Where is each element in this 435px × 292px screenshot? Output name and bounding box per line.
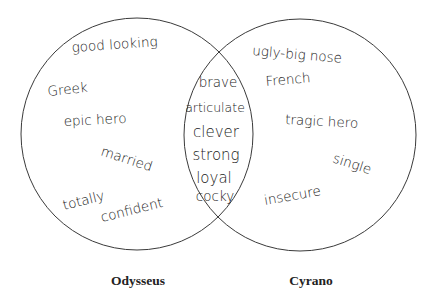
label-cyrano: Cyrano: [289, 273, 333, 288]
venn-diagram: good looking Greek epic hero married tot…: [0, 0, 435, 292]
item-married: married: [99, 143, 154, 175]
item-insecure: insecure: [263, 182, 322, 208]
item-cocky: cocky: [196, 188, 234, 204]
item-single: single: [331, 150, 374, 177]
item-loyal: loyal: [196, 169, 232, 187]
item-french: French: [265, 69, 311, 89]
item-tragic-hero: tragic hero: [285, 111, 359, 131]
item-confident: confident: [99, 194, 164, 225]
item-ugly-big-nose: ugly-big nose: [252, 42, 343, 66]
item-brave: brave: [199, 74, 238, 90]
item-greek: Greek: [47, 79, 89, 99]
label-odysseus: Odysseus: [111, 273, 165, 288]
item-good-looking: good looking: [71, 33, 158, 55]
item-clever: clever: [193, 123, 240, 141]
item-articulate: articulate: [185, 100, 245, 115]
item-epic-hero: epic hero: [63, 110, 126, 129]
item-strong: strong: [192, 146, 239, 164]
